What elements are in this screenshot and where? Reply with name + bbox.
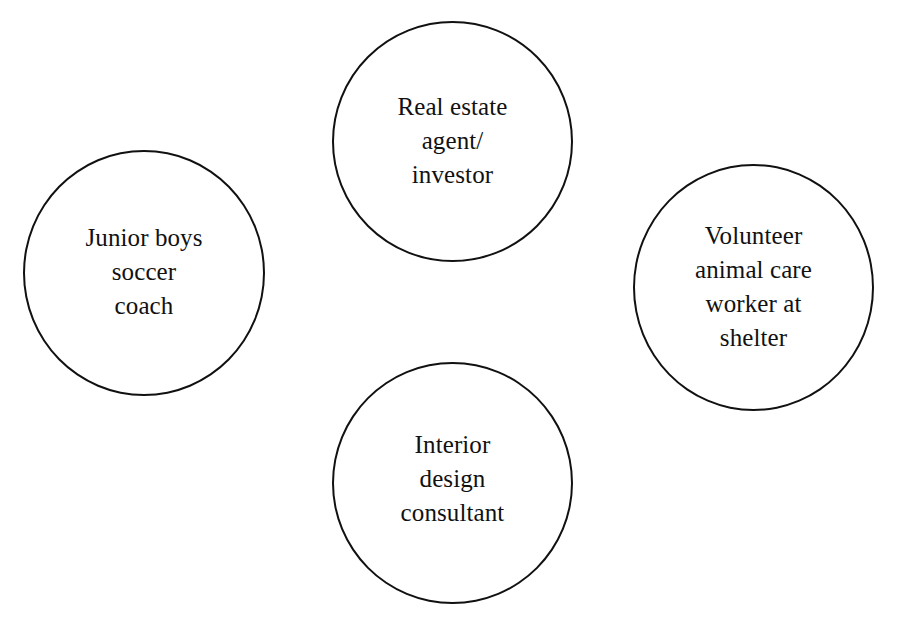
role-label-interior-design: Interior design consultant	[401, 428, 505, 530]
role-circle-interior-design: Interior design consultant	[332, 362, 573, 604]
role-label-animal-volunteer: Volunteer animal care worker at shelter	[695, 219, 812, 355]
role-label-soccer-coach: Junior boys soccer coach	[85, 221, 202, 323]
role-circle-soccer-coach: Junior boys soccer coach	[23, 150, 265, 396]
role-circle-real-estate: Real estate agent/ investor	[332, 21, 573, 262]
role-circle-animal-volunteer: Volunteer animal care worker at shelter	[633, 164, 874, 411]
diagram-canvas: Real estate agent/ investor Junior boys …	[0, 0, 899, 620]
role-label-real-estate: Real estate agent/ investor	[397, 90, 507, 192]
